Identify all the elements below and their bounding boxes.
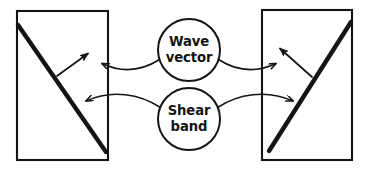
right-panel <box>262 10 352 160</box>
diagram-canvas: Wave vector Shear band <box>0 0 375 171</box>
shear-band-callout[interactable]: Shear band <box>158 88 220 150</box>
shear-band-label-line1: Shear <box>168 103 211 118</box>
left-panel <box>17 11 108 160</box>
figure-root: Wave vector Shear band <box>0 0 375 171</box>
wave-vector-label-line2: vector <box>166 50 213 65</box>
wave-vector-callout[interactable]: Wave vector <box>158 19 220 81</box>
shear-band-label-line2: band <box>171 119 208 134</box>
wave-vector-label-line1: Wave <box>169 34 209 49</box>
